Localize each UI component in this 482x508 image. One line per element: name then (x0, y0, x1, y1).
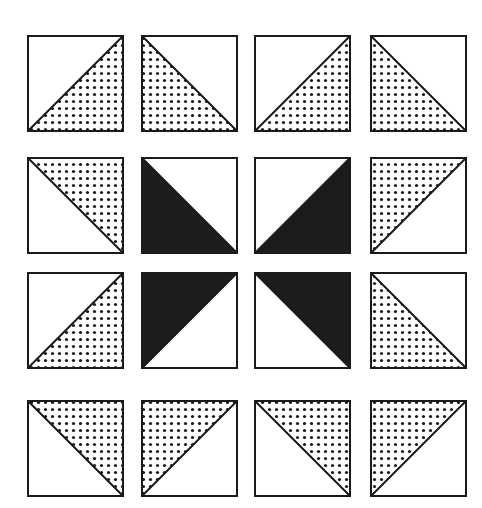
quilt-square-r3-c3 (255, 273, 350, 368)
quilt-block-diagram (0, 0, 482, 508)
quilt-square-r2-c1 (28, 158, 123, 253)
quilt-square-r4-c1 (28, 401, 123, 496)
quilt-square-r1-c3 (255, 36, 350, 131)
quilt-square-r3-c1 (28, 273, 123, 368)
quilt-square-r1-c1 (28, 36, 123, 131)
quilt-square-r4-c3 (255, 401, 350, 496)
quilt-square-r2-c2 (142, 158, 237, 253)
quilt-square-r3-c2 (142, 273, 237, 368)
quilt-square-r2-c3 (255, 158, 350, 253)
quilt-square-r1-c2 (142, 36, 237, 131)
quilt-square-r4-c4 (371, 401, 466, 496)
quilt-square-r2-c4 (371, 158, 466, 253)
quilt-grid (28, 36, 466, 496)
quilt-square-r4-c2 (142, 401, 237, 496)
quilt-square-r3-c4 (371, 273, 466, 368)
quilt-square-r1-c4 (371, 36, 466, 131)
